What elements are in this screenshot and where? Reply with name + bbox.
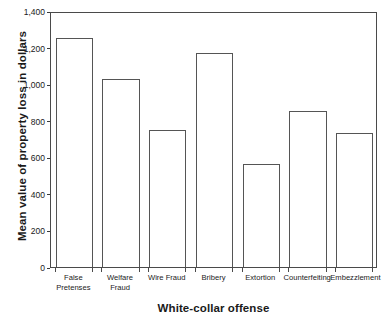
x-tick-mark xyxy=(139,268,140,272)
x-axis-title: White-collar offense xyxy=(50,302,377,314)
y-tick-label: 1,000 xyxy=(24,79,47,91)
bar xyxy=(196,53,233,267)
x-tick-mark xyxy=(232,268,233,272)
x-tick-mark xyxy=(372,268,373,272)
bar-chart: Mean value of property loss in dollars 0… xyxy=(0,0,390,325)
bar xyxy=(243,164,280,267)
x-tick-mark xyxy=(148,268,149,272)
bar xyxy=(102,79,139,267)
y-tick: 1,400 xyxy=(24,6,50,18)
x-tick-mark xyxy=(242,268,243,272)
x-axis-tick-labels: False PretensesWelfare FraudWire FraudBr… xyxy=(50,273,377,303)
plot-area xyxy=(50,12,377,268)
x-tick-mark xyxy=(279,268,280,272)
y-tick: 800 xyxy=(31,116,50,128)
y-tick: 1,000 xyxy=(24,79,50,91)
y-tick-label: 800 xyxy=(31,116,47,128)
y-tick: 1,200 xyxy=(24,43,50,55)
x-tick-label: Extortion xyxy=(237,273,284,283)
y-tick-label: 1,400 xyxy=(24,6,47,18)
x-tick-mark xyxy=(55,268,56,272)
x-tick-mark xyxy=(288,268,289,272)
x-tick-label: Welfare Fraud xyxy=(97,273,144,292)
y-tick: 400 xyxy=(31,189,50,201)
x-tick-mark xyxy=(326,268,327,272)
y-tick: 0 xyxy=(40,262,50,274)
x-tick-label: Bribery xyxy=(190,273,237,283)
x-tick-mark xyxy=(335,268,336,272)
y-tick: 600 xyxy=(31,152,50,164)
bar xyxy=(289,111,326,267)
x-tick-label: Counterfeiting xyxy=(284,273,331,283)
x-tick-label: False Pretenses xyxy=(50,273,97,292)
bar xyxy=(56,38,93,267)
x-tick-mark xyxy=(195,268,196,272)
x-tick-label: Wire Fraud xyxy=(143,273,190,283)
bars-container xyxy=(51,13,376,267)
y-tick-label: 600 xyxy=(31,152,47,164)
y-tick-label: 200 xyxy=(31,225,47,237)
y-tick: 200 xyxy=(31,225,50,237)
bar xyxy=(149,130,186,267)
y-tick-label: 400 xyxy=(31,189,47,201)
x-tick-mark xyxy=(185,268,186,272)
y-axis-ticks: 02004006008001,0001,2001,400 xyxy=(0,0,50,325)
x-tick-mark xyxy=(101,268,102,272)
x-tick-mark xyxy=(92,268,93,272)
y-tick-label: 1,200 xyxy=(24,43,47,55)
x-tick-label: Embezzlement xyxy=(330,273,377,283)
y-tick-label: 0 xyxy=(40,262,47,274)
bar xyxy=(336,133,373,267)
